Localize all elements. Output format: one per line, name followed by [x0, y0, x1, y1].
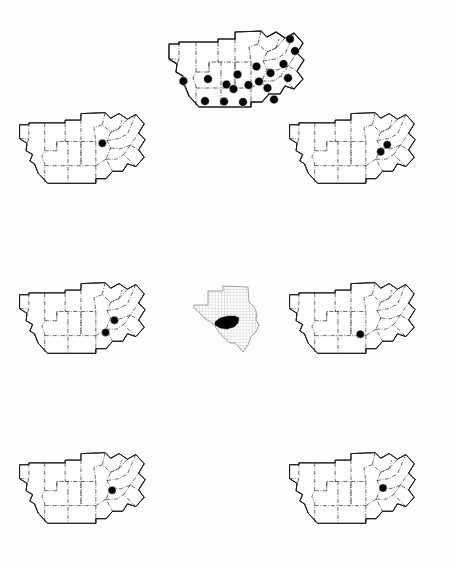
occurrence-dot: [356, 330, 364, 338]
occurrence-dots: [356, 330, 364, 338]
occurrence-dot: [244, 81, 253, 90]
map-panel-1: [163, 26, 313, 121]
occurrence-dot: [98, 139, 106, 147]
occurrence-dot: [108, 486, 116, 494]
occurrence-dot: [220, 97, 229, 106]
texas-inset-svg: [190, 283, 268, 359]
occurrence-dot: [233, 70, 242, 79]
occurrence-dot: [291, 47, 300, 56]
occurrence-dot: [279, 60, 288, 69]
map-panel-6: [14, 448, 154, 536]
occurrence-dot: [377, 148, 385, 156]
occurrence-dot: [255, 77, 264, 86]
occurrence-dot: [102, 328, 110, 336]
occurrence-dot: [179, 77, 188, 86]
occurrence-dot: [383, 141, 391, 149]
occurrence-dot: [204, 75, 213, 84]
occurrence-dots: [98, 139, 106, 147]
map-panel-5: [284, 278, 424, 366]
map-panel-4: [14, 278, 154, 366]
occurrence-dot: [286, 35, 295, 44]
region-map-svg: [14, 108, 154, 196]
occurrence-dot: [266, 69, 275, 78]
region-map-svg: [14, 278, 154, 366]
region-map-svg: [163, 26, 313, 121]
occurrence-dot: [284, 74, 293, 83]
region-map-svg: [284, 108, 424, 196]
occurrence-dot: [229, 85, 238, 94]
region-map-svg: [284, 448, 424, 536]
figure-plate: [0, 0, 456, 563]
occurrence-dots: [108, 486, 116, 494]
occurrence-dots: [379, 484, 387, 492]
occurrence-dot: [263, 84, 272, 93]
occurrence-dot: [252, 62, 261, 71]
map-panel-2: [14, 108, 154, 196]
texas-state-inset: [190, 283, 268, 363]
occurrence-dot: [239, 98, 248, 107]
region-map-svg: [284, 278, 424, 366]
occurrence-dot: [201, 97, 210, 106]
occurrence-dot: [379, 484, 387, 492]
map-panel-3: [284, 108, 424, 196]
occurrence-dot: [110, 316, 118, 324]
region-map-svg: [14, 448, 154, 536]
map-panel-7: [284, 448, 424, 536]
occurrence-dot: [270, 95, 279, 104]
